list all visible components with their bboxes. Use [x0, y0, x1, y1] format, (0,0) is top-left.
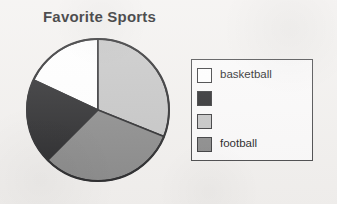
legend-item-2[interactable]: [197, 89, 220, 107]
pie-chart-figure: Favorite Sports basketball football: [0, 0, 337, 204]
legend-item-basketball[interactable]: basketball: [197, 66, 272, 84]
legend-swatch-2: [197, 91, 212, 106]
legend-item-football[interactable]: football: [197, 135, 257, 153]
pie-chart-svg: [25, 37, 171, 183]
legend-box: basketball football: [191, 59, 313, 161]
pie-chart: [25, 37, 171, 183]
legend-label-football: football: [220, 138, 257, 150]
legend-swatch-basketball: [197, 68, 212, 83]
legend-label-basketball: basketball: [220, 69, 272, 81]
legend-swatch-football: [197, 137, 212, 152]
chart-title: Favorite Sports: [43, 8, 156, 25]
legend-swatch-3: [197, 114, 212, 129]
legend-item-3[interactable]: [197, 112, 220, 130]
